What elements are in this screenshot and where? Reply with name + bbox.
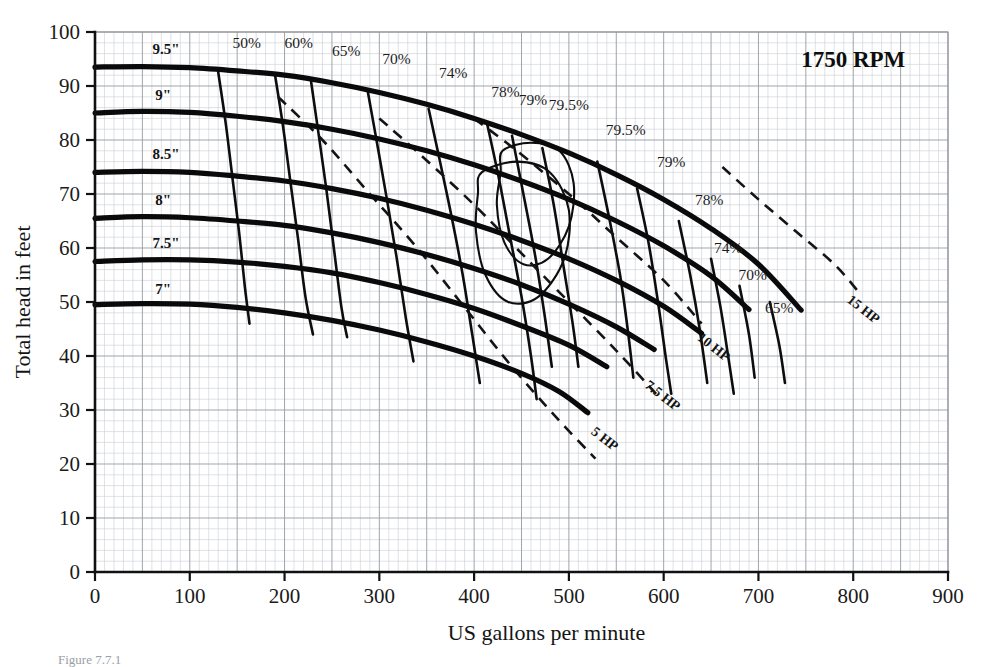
efficiency-label: 79% [657, 153, 686, 170]
y-tick-label: 80 [59, 128, 80, 152]
y-tick-label: 40 [59, 344, 80, 368]
efficiency-label: 78% [491, 83, 520, 100]
efficiency-label: 60% [285, 34, 314, 51]
rpm-title: 1750 RPM [801, 47, 905, 72]
x-tick-label: 200 [269, 584, 301, 608]
efficiency-label: 65% [765, 299, 794, 316]
x-tick-label: 900 [932, 584, 964, 608]
y-tick-label: 30 [59, 398, 80, 422]
efficiency-label: 50% [232, 34, 261, 51]
impeller-label: 8.5" [153, 146, 180, 162]
efficiency-label: 79% [519, 91, 548, 108]
impeller-label: 8" [155, 192, 171, 208]
impeller-label: 9" [155, 87, 171, 103]
x-tick-label: 600 [648, 584, 680, 608]
y-tick-label: 10 [59, 506, 80, 530]
pump-performance-chart: 0100200300400500600700800900010203040506… [0, 0, 988, 667]
chart-canvas: 0100200300400500600700800900010203040506… [0, 0, 988, 667]
efficiency-label: 74% [714, 239, 743, 256]
figure-caption: Figure 7.7.1 [58, 652, 121, 667]
x-tick-label: 0 [90, 584, 101, 608]
y-tick-label: 100 [49, 20, 81, 44]
efficiency-label: 70% [739, 266, 768, 283]
efficiency-label: 74% [439, 64, 468, 81]
x-tick-label: 800 [837, 584, 869, 608]
efficiency-label: 79.5% [549, 96, 589, 113]
x-tick-label: 700 [743, 584, 775, 608]
x-tick-label: 500 [553, 584, 585, 608]
y-tick-label: 50 [59, 290, 80, 314]
efficiency-label: 78% [695, 191, 724, 208]
x-tick-label: 300 [364, 584, 396, 608]
impeller-label: 9.5" [153, 41, 180, 57]
y-tick-label: 90 [59, 74, 80, 98]
y-tick-label: 20 [59, 452, 80, 476]
y-axis-title: Total head in feet [10, 225, 35, 378]
efficiency-label: 65% [332, 42, 361, 59]
efficiency-label: 79.5% [606, 121, 646, 138]
y-tick-label: 0 [70, 560, 81, 584]
x-axis-title: US gallons per minute [448, 620, 645, 645]
x-tick-label: 100 [174, 584, 206, 608]
chart-background [0, 0, 988, 667]
impeller-label: 7.5" [153, 235, 180, 251]
y-tick-label: 60 [59, 236, 80, 260]
impeller-label: 7" [155, 281, 171, 297]
x-tick-label: 400 [458, 584, 490, 608]
efficiency-label: 70% [382, 50, 411, 67]
y-tick-label: 70 [59, 182, 80, 206]
